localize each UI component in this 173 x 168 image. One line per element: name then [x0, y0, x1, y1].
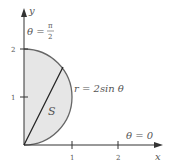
x-axis-label: x — [155, 151, 161, 162]
x-tick-label-1: 1 — [70, 154, 74, 162]
x-tick-label-2: 2 — [116, 154, 120, 162]
polar-diagram: y x 1 2 1 2 θ = π 2 θ = 0 r = 2sin θ S — [0, 0, 173, 168]
y-axis-arrow-icon — [21, 8, 27, 17]
y-axis-label: y — [28, 5, 35, 16]
angle-label-right: θ = 0 — [126, 130, 154, 141]
y-tick-label-1: 1 — [11, 94, 15, 102]
y-tick-label-2: 2 — [11, 46, 15, 54]
curve-equation-label: r = 2sin θ — [74, 83, 124, 94]
angle-label-top-numerator: π — [48, 22, 53, 30]
x-axis-arrow-icon — [154, 142, 163, 148]
angle-label-top-denominator: 2 — [48, 33, 52, 41]
angle-label-top: θ = — [27, 26, 45, 37]
region-label-s: S — [48, 105, 56, 118]
